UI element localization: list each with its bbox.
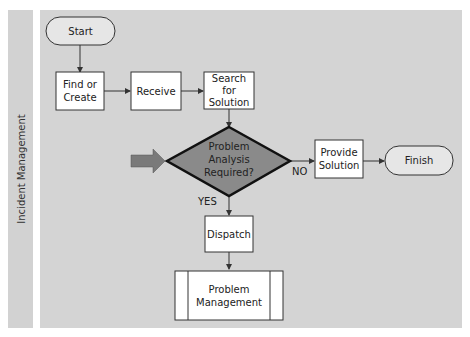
no-edge-label: NO xyxy=(292,166,307,177)
receive-label: Receive xyxy=(136,86,175,97)
entry-arrow-icon xyxy=(131,149,165,173)
problem-mgmt-label-2: Management xyxy=(196,297,262,308)
find-or-create-label-1: Find or xyxy=(63,79,98,90)
problem-analysis-decision[interactable]: Problem Analysis Required? xyxy=(167,127,290,196)
decision-label-1: Problem xyxy=(209,141,250,152)
start-node[interactable]: Start xyxy=(46,17,115,45)
flowchart: Start Find or Create Receive Search for … xyxy=(0,0,470,337)
finish-label: Finish xyxy=(405,155,433,166)
yes-edge-label: YES xyxy=(197,196,217,207)
dispatch-label: Dispatch xyxy=(207,229,251,240)
provide-label-1: Provide xyxy=(320,147,357,158)
provide-solution-node[interactable]: Provide Solution xyxy=(315,140,363,178)
search-label-1: Search xyxy=(212,73,246,84)
search-label-3: Solution xyxy=(209,97,250,108)
provide-label-2: Solution xyxy=(319,160,360,171)
start-label: Start xyxy=(68,26,93,37)
search-for-solution-node[interactable]: Search for Solution xyxy=(204,72,254,109)
problem-mgmt-label-1: Problem xyxy=(209,284,250,295)
receive-node[interactable]: Receive xyxy=(131,72,181,110)
decision-label-2: Analysis xyxy=(208,154,249,165)
problem-management-node[interactable]: Problem Management xyxy=(175,271,283,320)
decision-label-3: Required? xyxy=(204,167,254,178)
finish-node[interactable]: Finish xyxy=(385,146,453,175)
search-label-2: for xyxy=(222,85,237,96)
dispatch-node[interactable]: Dispatch xyxy=(205,216,253,252)
find-or-create-label-2: Create xyxy=(63,92,96,103)
find-or-create-node[interactable]: Find or Create xyxy=(56,72,104,110)
